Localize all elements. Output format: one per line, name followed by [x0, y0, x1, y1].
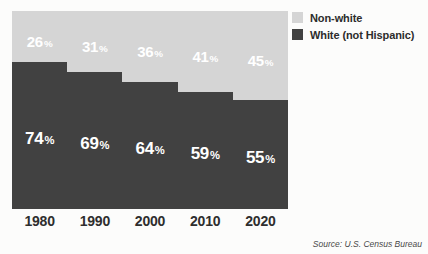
bar-column-2010[interactable]: 41% 59%	[178, 11, 233, 209]
bar-segment-white-1990[interactable]: 69%	[67, 72, 122, 209]
bar-value-number: 55	[246, 149, 264, 166]
percent-sign: %	[210, 150, 220, 161]
bar-value-number: 41	[192, 49, 208, 64]
x-axis-labels: 1980 1990 2000 2010 2020	[12, 213, 288, 229]
bar-value-number: 69	[80, 135, 98, 152]
bar-segment-non-white-2020[interactable]: 45%	[233, 11, 288, 100]
legend-label-white-not-hispanic: White (not Hispanic)	[310, 29, 414, 41]
percent-sign: %	[44, 135, 54, 146]
bar-value-label: 45%	[248, 53, 274, 68]
percent-sign: %	[265, 58, 273, 68]
bar-segment-non-white-1980[interactable]: 26%	[12, 11, 67, 62]
bar-value-number: 36	[137, 44, 153, 59]
bar-value-label: 74%	[25, 130, 54, 147]
bar-value-label: 59%	[191, 145, 220, 162]
percent-sign: %	[99, 44, 107, 54]
x-tick-2000: 2000	[122, 213, 177, 229]
bar-segment-white-2010[interactable]: 59%	[178, 92, 233, 209]
bar-segment-non-white-2000[interactable]: 36%	[122, 11, 177, 82]
bar-value-number: 64	[136, 140, 154, 157]
bar-segment-non-white-1990[interactable]: 31%	[67, 11, 122, 72]
stacked-bar-chart: 26% 74% 31% 69%	[0, 0, 428, 254]
percent-sign: %	[155, 145, 165, 156]
bar-value-number: 45	[248, 53, 264, 68]
bar-value-label: 64%	[136, 140, 165, 157]
bar-value-number: 74	[25, 130, 43, 147]
bar-column-1980[interactable]: 26% 74%	[12, 11, 67, 209]
legend-item-white-not-hispanic[interactable]: White (not Hispanic)	[292, 28, 414, 41]
percent-sign: %	[44, 39, 52, 49]
legend-label-non-white: Non-white	[310, 12, 362, 24]
x-tick-2010: 2010	[178, 213, 233, 229]
percent-sign: %	[100, 140, 110, 151]
bar-column-1990[interactable]: 31% 69%	[67, 11, 122, 209]
x-tick-1990: 1990	[67, 213, 122, 229]
legend-item-non-white[interactable]: Non-white	[292, 11, 414, 24]
percent-sign: %	[210, 54, 218, 64]
x-tick-2020: 2020	[233, 213, 288, 229]
legend-swatch-icon-white-not-hispanic	[292, 29, 303, 40]
bar-value-number: 26	[27, 34, 43, 49]
bar-value-label: 41%	[192, 49, 218, 64]
bar-column-2000[interactable]: 36% 64%	[122, 11, 177, 209]
source-credit: Source: U.S. Census Bureau	[313, 239, 422, 249]
bar-segment-non-white-2010[interactable]: 41%	[178, 11, 233, 92]
bar-value-number: 59	[191, 145, 209, 162]
percent-sign: %	[265, 154, 275, 165]
bar-value-label: 31%	[82, 39, 108, 54]
legend-swatch-icon-non-white	[292, 12, 303, 23]
bar-segment-white-2020[interactable]: 55%	[233, 100, 288, 209]
plot-area: 26% 74% 31% 69%	[12, 11, 288, 209]
legend: Non-white White (not Hispanic)	[292, 11, 414, 41]
bar-segment-white-2000[interactable]: 64%	[122, 82, 177, 209]
bar-value-label: 69%	[80, 135, 109, 152]
bar-segment-white-1980[interactable]: 74%	[12, 62, 67, 209]
bar-value-label: 36%	[137, 44, 163, 59]
bar-column-2020[interactable]: 45% 55%	[233, 11, 288, 209]
bar-value-number: 31	[82, 39, 98, 54]
x-tick-1980: 1980	[12, 213, 67, 229]
percent-sign: %	[154, 49, 162, 59]
bar-value-label: 26%	[27, 34, 53, 49]
bar-value-label: 55%	[246, 149, 275, 166]
